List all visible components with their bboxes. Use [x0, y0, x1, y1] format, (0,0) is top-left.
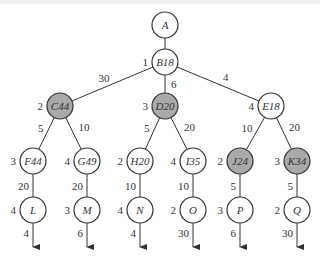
- node-side-number: 1: [143, 56, 149, 68]
- edge-weight-E-K: 20: [289, 121, 301, 133]
- node-label: B18: [156, 56, 174, 68]
- node-I: I354: [171, 148, 207, 174]
- node-side-number: 4: [65, 155, 71, 167]
- node-F: F443: [11, 148, 47, 174]
- node-B: B181: [143, 49, 179, 75]
- edge-weight-J-P: 5: [231, 180, 237, 192]
- edge-weight-E-J: 10: [242, 122, 254, 134]
- edge-B-C: [72, 67, 153, 101]
- edge-weight-K-Q: 5: [288, 180, 294, 192]
- node-side-number: 4: [249, 100, 255, 112]
- node-label: C44: [51, 100, 70, 112]
- node-M: M3: [65, 197, 101, 223]
- node-label: D20: [155, 100, 175, 112]
- nodes-layer: AB181C442D203E184F443G494H202I354J242K34…: [11, 12, 311, 223]
- node-label: A: [161, 19, 169, 31]
- edge-weight-H-N: 10: [125, 180, 137, 192]
- exit-weight-O: 30: [178, 227, 190, 239]
- node-label: M: [81, 204, 92, 216]
- node-D: D203: [143, 93, 179, 119]
- node-side-number: 2: [118, 155, 124, 167]
- node-label: L: [29, 204, 36, 216]
- exit-weight-L: 4: [24, 227, 30, 239]
- node-H: H202: [118, 148, 154, 174]
- edge-weight-F-L: 20: [18, 180, 30, 192]
- node-side-number: 4: [171, 155, 177, 167]
- node-label: J24: [232, 155, 248, 167]
- node-side-number: 2: [275, 204, 281, 216]
- node-Q: Q2: [275, 197, 311, 223]
- node-label: H20: [130, 155, 150, 167]
- node-K: K343: [275, 148, 311, 174]
- edge-weight-D-I: 20: [184, 121, 196, 133]
- edge-B-E: [177, 67, 259, 101]
- node-C: C442: [38, 93, 74, 119]
- edge-weight-B-C: 30: [99, 72, 111, 84]
- node-label: Q: [293, 204, 301, 216]
- edge-weight-B-E: 4: [223, 71, 229, 83]
- node-P: P3: [218, 197, 254, 223]
- node-side-number: 3: [275, 155, 281, 167]
- edge-weight-D-H: 5: [144, 122, 150, 134]
- node-A: A: [152, 12, 178, 38]
- node-O: O2: [171, 197, 207, 223]
- node-L: L4: [11, 197, 47, 223]
- node-side-number: 3: [11, 155, 17, 167]
- node-label: K34: [287, 155, 307, 167]
- node-side-number: 3: [143, 100, 149, 112]
- node-label: P: [236, 204, 244, 216]
- node-label: I35: [185, 155, 201, 167]
- node-J: J242: [218, 148, 254, 174]
- node-side-number: 2: [171, 204, 177, 216]
- node-label: F44: [23, 155, 42, 167]
- node-side-number: 3: [218, 204, 224, 216]
- node-N: N4: [118, 197, 154, 223]
- tree-canvas: 306451052010202020101055 46430630 AB181C…: [0, 0, 320, 256]
- edge-weight-I-O: 10: [178, 180, 190, 192]
- exit-weight-Q: 30: [282, 227, 294, 239]
- node-label: O: [189, 204, 197, 216]
- node-label: E18: [261, 100, 280, 112]
- edge-weight-C-G: 10: [79, 121, 91, 133]
- node-side-number: 2: [38, 100, 44, 112]
- edge-weight-G-M: 20: [72, 180, 84, 192]
- node-label: G49: [78, 155, 97, 167]
- tree-diagram: 306451052010202020101055 46430630 AB181C…: [0, 0, 320, 256]
- node-side-number: 2: [218, 155, 224, 167]
- node-side-number: 4: [118, 204, 124, 216]
- exit-weight-P: 6: [231, 227, 237, 239]
- node-label: N: [135, 204, 144, 216]
- edge-weight-C-F: 5: [38, 122, 44, 134]
- node-E: E184: [249, 93, 285, 119]
- node-G: G494: [65, 148, 101, 174]
- exit-weight-M: 6: [78, 227, 84, 239]
- node-side-number: 4: [11, 204, 17, 216]
- exit-weight-N: 4: [131, 227, 137, 239]
- node-side-number: 3: [65, 204, 71, 216]
- exits-layer: 46430630: [24, 223, 298, 247]
- edge-weight-B-D: 6: [171, 78, 177, 90]
